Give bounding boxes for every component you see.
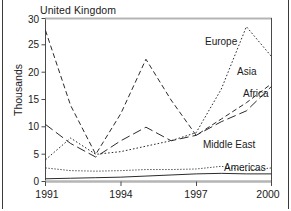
y-tick-label-30: 30 bbox=[28, 14, 40, 25]
y-tick-label-5: 5 bbox=[33, 149, 39, 160]
x-tick-label-1997: 1997 bbox=[184, 188, 208, 200]
y-tick-label-0: 0 bbox=[33, 176, 39, 187]
series-label-middle-east: Middle East bbox=[203, 139, 255, 150]
series-label-europe: Europe bbox=[205, 36, 238, 47]
series-label-africa: Africa bbox=[243, 88, 269, 99]
x-tick-label-1994: 1994 bbox=[109, 188, 133, 200]
series-label-americas: Americas bbox=[224, 162, 266, 173]
series-label-asia: Asia bbox=[237, 66, 257, 77]
chart-figure: United Kingdom Thousands 0 5 10 15 20 25… bbox=[0, 0, 291, 211]
y-tick-label-20: 20 bbox=[28, 67, 40, 78]
x-tick-label-2000: 2000 bbox=[256, 188, 280, 200]
series-line-americas bbox=[46, 173, 272, 178]
series-layer bbox=[46, 27, 272, 179]
y-tick-label-25: 25 bbox=[28, 39, 40, 50]
y-tick-label-10: 10 bbox=[28, 121, 40, 132]
plot-area: 0 5 10 15 20 25 30 1991 1994 1997 2000 E… bbox=[0, 0, 291, 211]
x-tick-label-1991: 1991 bbox=[35, 188, 59, 200]
y-tick-label-15: 15 bbox=[28, 94, 40, 105]
